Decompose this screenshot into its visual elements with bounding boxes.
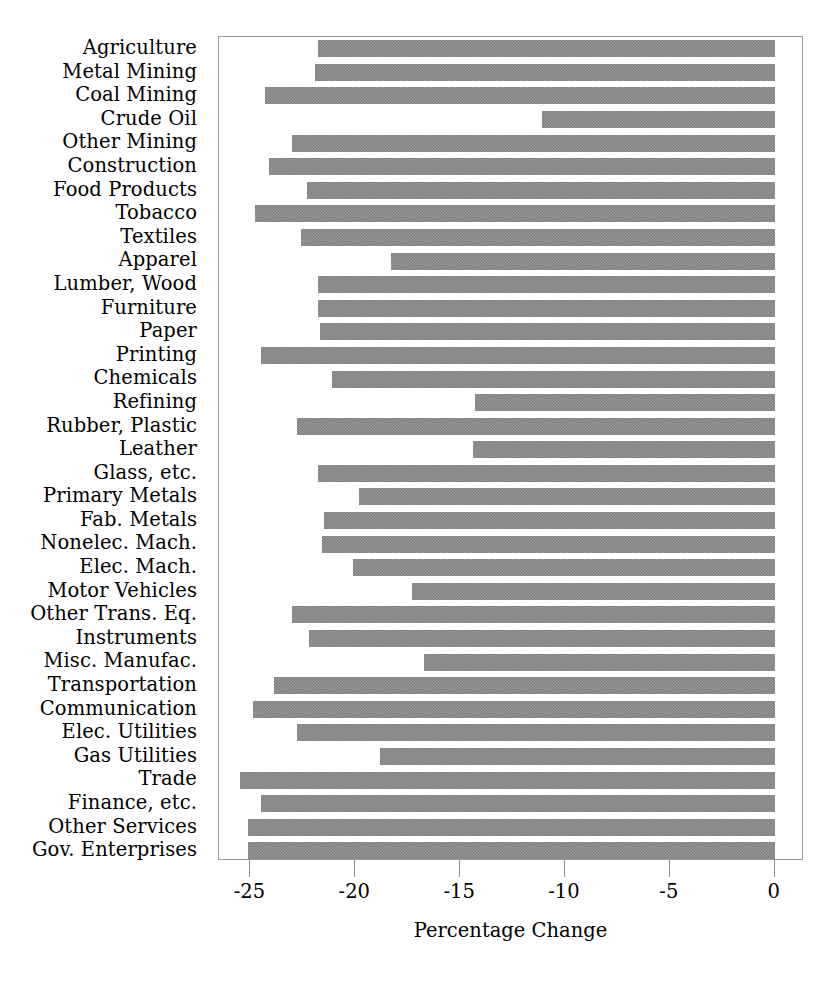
x-tick-mark (249, 860, 250, 877)
bar (318, 40, 775, 57)
bar-row (219, 415, 802, 439)
category-label: Primary Metals (0, 484, 205, 508)
bar-row (219, 509, 802, 533)
bar-row (219, 839, 802, 860)
bar-row (219, 603, 802, 627)
category-label: Other Mining (0, 130, 205, 154)
x-tick-label: -10 (548, 880, 579, 904)
category-label: Transportation (0, 673, 205, 697)
plot-area (218, 36, 803, 860)
bar (292, 606, 774, 623)
bar (301, 229, 775, 246)
bar (297, 724, 775, 741)
category-label: Agriculture (0, 36, 205, 60)
bar-row (219, 532, 802, 556)
bar-row (219, 344, 802, 368)
category-label: Crude Oil (0, 107, 205, 131)
bar-row (219, 721, 802, 745)
x-axis: -25-20-15-10-50 (218, 860, 803, 920)
bar (391, 253, 775, 270)
bar (359, 488, 774, 505)
category-label: Coal Mining (0, 83, 205, 107)
bar-row (219, 367, 802, 391)
category-label: Refining (0, 390, 205, 414)
bar-row (219, 816, 802, 840)
category-label: Gov. Enterprises (0, 838, 205, 862)
bar-row (219, 698, 802, 722)
bar-row (219, 650, 802, 674)
bar (307, 182, 775, 199)
bar-row (219, 84, 802, 108)
bar (261, 347, 775, 364)
bar (265, 87, 775, 104)
bar-row (219, 179, 802, 203)
category-label: Fab. Metals (0, 508, 205, 532)
category-label: Gas Utilities (0, 744, 205, 768)
bar (292, 135, 774, 152)
bars-layer (219, 37, 802, 859)
category-label: Elec. Utilities (0, 720, 205, 744)
bar-row (219, 768, 802, 792)
bar-row (219, 226, 802, 250)
category-label: Apparel (0, 248, 205, 272)
category-label: Communication (0, 697, 205, 721)
bar (320, 323, 775, 340)
x-tick-mark (459, 860, 460, 877)
bar-row (219, 556, 802, 580)
bar-row (219, 485, 802, 509)
bar-row (219, 745, 802, 769)
bar (324, 512, 775, 529)
category-label: Motor Vehicles (0, 579, 205, 603)
category-label: Tobacco (0, 201, 205, 225)
category-label: Lumber, Wood (0, 272, 205, 296)
x-axis-title: Percentage Change (218, 918, 803, 944)
bar (318, 300, 775, 317)
bar (322, 536, 775, 553)
category-label: Elec. Mach. (0, 555, 205, 579)
bar (332, 371, 774, 388)
category-label: Other Trans. Eq. (0, 602, 205, 626)
bar (412, 583, 775, 600)
bar-row (219, 249, 802, 273)
category-label: Instruments (0, 626, 205, 650)
category-label: Construction (0, 154, 205, 178)
bar (274, 677, 775, 694)
category-label: Chemicals (0, 366, 205, 390)
x-tick-mark (774, 860, 775, 877)
bar-row (219, 462, 802, 486)
category-label: Trade (0, 767, 205, 791)
bar (315, 64, 774, 81)
bar-row (219, 792, 802, 816)
x-tick-label: -25 (234, 880, 265, 904)
bar (309, 630, 774, 647)
category-label: Textiles (0, 225, 205, 249)
bar-chart: AgricultureMetal MiningCoal MiningCrude … (0, 0, 826, 986)
category-label: Glass, etc. (0, 461, 205, 485)
bar (473, 441, 775, 458)
bar-row (219, 674, 802, 698)
x-tick-label: -5 (659, 880, 678, 904)
bar (248, 842, 774, 859)
x-tick-mark (669, 860, 670, 877)
bar-row (219, 391, 802, 415)
category-label: Leather (0, 437, 205, 461)
x-tick-mark (564, 860, 565, 877)
bar-row (219, 627, 802, 651)
bar (261, 795, 775, 812)
category-label: Printing (0, 343, 205, 367)
bar (424, 654, 774, 671)
category-label: Paper (0, 319, 205, 343)
bar-row (219, 580, 802, 604)
category-axis: AgricultureMetal MiningCoal MiningCrude … (0, 36, 205, 860)
bar-row (219, 61, 802, 85)
x-tick-label: -20 (339, 880, 370, 904)
bar (253, 701, 775, 718)
category-label: Misc. Manufac. (0, 649, 205, 673)
category-label: Rubber, Plastic (0, 414, 205, 438)
bar (318, 276, 775, 293)
bar-row (219, 155, 802, 179)
x-tick-mark (354, 860, 355, 877)
bar-row (219, 202, 802, 226)
bar-row (219, 273, 802, 297)
bar (380, 748, 774, 765)
